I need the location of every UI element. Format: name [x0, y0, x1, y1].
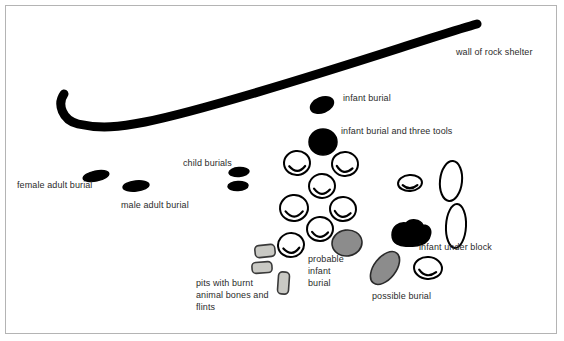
pit-3: [277, 272, 290, 295]
label-child-burials: child burials: [183, 157, 232, 169]
label-pits-with-burnt-bones: pits with burntanimal bones andflints: [196, 277, 269, 313]
pit-1: [254, 244, 275, 258]
infant-burial: [308, 94, 336, 117]
stone-9: [413, 256, 442, 280]
label-line: pits with burnt: [196, 277, 269, 289]
stone-4: [279, 194, 309, 222]
site-plan-figure: wall of rock shelterinfant burialinfant …: [0, 0, 564, 341]
stone-2: [331, 151, 359, 177]
label-line: probable: [308, 253, 344, 265]
label-infant-burial: infant burial: [343, 92, 391, 104]
label-possible-burial: possible burial: [372, 290, 431, 302]
label-infant-under-block: infant under block: [419, 241, 492, 253]
label-wall-of-rock-shelter: wall of rock shelter: [456, 46, 533, 58]
child-burial-lower: [228, 181, 248, 191]
label-line: infant: [308, 265, 344, 277]
stone-7: [276, 231, 305, 258]
label-line: flints: [196, 301, 269, 313]
infant-burial-and-three-tools: [309, 129, 337, 155]
male-adult-burial: [123, 180, 150, 193]
wall-of-rock-shelter: [61, 24, 477, 127]
label-infant-burial-three-tools: infant burial and three tools: [341, 125, 452, 137]
label-line: burial: [308, 277, 344, 289]
stone-1: [283, 150, 311, 177]
tall-stone-upper: [438, 160, 464, 202]
pit-2: [252, 261, 273, 273]
label-line: animal bones and: [196, 289, 269, 301]
label-female-adult-burial: female adult burial: [17, 179, 92, 191]
possible-burial: [365, 246, 406, 289]
label-male-adult-burial: male adult burial: [121, 199, 189, 211]
label-probable-infant-burial: probableinfantburial: [308, 253, 344, 289]
